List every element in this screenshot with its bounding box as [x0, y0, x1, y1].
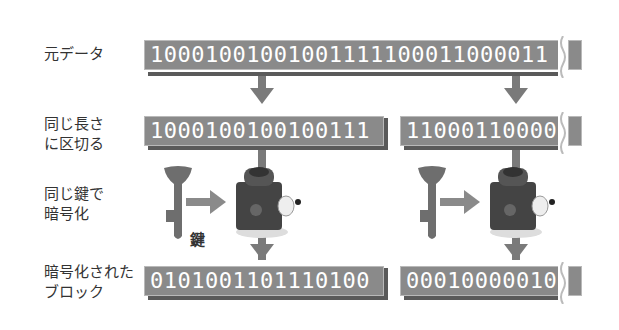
label-original-data: 元データ	[44, 44, 104, 64]
arrow-right-2-icon	[464, 190, 480, 214]
arrow-right-2-shaft	[440, 198, 464, 206]
tear-edge-enc-block2	[558, 262, 568, 304]
arrow-down-1-shaft	[258, 76, 266, 88]
lock-machine-icon-1	[232, 162, 302, 242]
tear-edge-original	[558, 36, 568, 78]
block1-bits: 1000100100100111	[150, 116, 370, 146]
label-encrypted-blocks: 暗号化された ブロック	[44, 262, 134, 302]
original-data-bits: 10001001001001111100011000011	[150, 40, 549, 70]
label-split-equal-length: 同じ長さ に区切る	[44, 114, 104, 154]
tear-edge-block2	[558, 112, 568, 154]
lock-machine-icon-2	[486, 162, 556, 242]
arrow-down-4-icon	[504, 244, 528, 260]
enc-block2-tail	[568, 266, 582, 296]
arrow-down-2-shaft	[512, 76, 520, 88]
enc-block1-vshadow	[384, 268, 388, 300]
block2-box: 11000110000	[400, 116, 562, 146]
block1-shadow	[148, 146, 386, 150]
key-label: 鍵	[190, 228, 205, 249]
original-data-shadow	[148, 72, 566, 76]
enc-block1-bits: 0101001101110100	[150, 266, 370, 296]
arrow-down-3-icon	[250, 244, 274, 260]
arrow-down-1-icon	[250, 88, 274, 104]
block1-vshadow	[384, 118, 388, 150]
original-data-box: 10001001001001111100011000011	[144, 40, 564, 70]
arrow-right-1-shaft	[186, 198, 210, 206]
block1-box: 1000100100100111	[144, 116, 384, 146]
enc-block1-shadow	[148, 296, 386, 300]
enc-block1-box: 0101001101110100	[144, 266, 384, 296]
enc-block2-bits: 00010000010	[406, 266, 557, 296]
enc-block2-shadow	[404, 296, 568, 300]
arrow-down-2-icon	[504, 88, 528, 104]
enc-block2-box: 00010000010	[400, 266, 562, 296]
block2-shadow	[404, 146, 568, 150]
original-data-tail	[568, 40, 582, 70]
label-encrypt-same-key: 同じ鍵で 暗号化	[44, 184, 104, 224]
block2-bits: 11000110000	[406, 116, 557, 146]
block2-tail	[568, 116, 582, 146]
arrow-right-1-icon	[210, 190, 226, 214]
